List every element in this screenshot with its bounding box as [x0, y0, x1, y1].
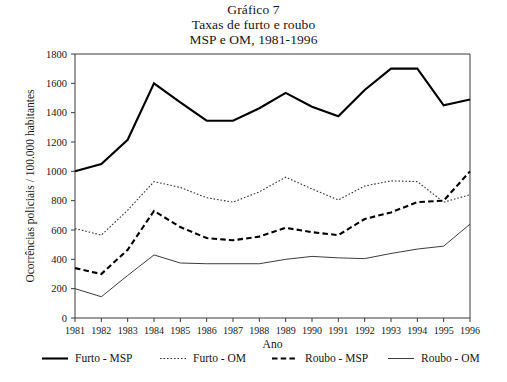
x-tick-label: 1983 — [118, 325, 138, 336]
x-tick-label: 1990 — [302, 325, 322, 336]
x-tick-label: 1995 — [434, 325, 454, 336]
x-tick-label: 1991 — [328, 325, 348, 336]
x-tick-label: 1981 — [65, 325, 85, 336]
y-tick-label: 1600 — [46, 78, 67, 89]
y-tick-label: 1000 — [46, 166, 67, 177]
x-tick-label: 1988 — [249, 325, 269, 336]
legend-layer: Furto - MSPFurto - OMRoubo - MSPRoubo - … — [42, 352, 480, 364]
y-tick-label: 800 — [51, 195, 67, 206]
tick-label-layer: 0200400600800100012001400160018001981198… — [46, 49, 480, 336]
legend-label-furto-om: Furto - OM — [193, 352, 246, 364]
series-line-roubo-om — [75, 224, 470, 297]
x-tick-label: 1982 — [91, 325, 111, 336]
legend-label-roubo-msp: Roubo - MSP — [305, 352, 368, 364]
y-tick-label: 1400 — [46, 107, 67, 118]
y-tick-label: 1800 — [46, 49, 67, 60]
series-line-furto-om — [75, 177, 470, 235]
x-tick-label: 1989 — [276, 325, 296, 336]
plot-frame — [75, 54, 470, 318]
series-line-roubo-msp — [75, 171, 470, 274]
y-tick-label: 600 — [51, 225, 67, 236]
axis-title-layer: AnoOcorrências policiais / 100.000 habit… — [24, 89, 283, 350]
y-tick-label: 400 — [51, 254, 67, 265]
axes-layer — [71, 54, 470, 322]
x-tick-label: 1987 — [223, 325, 243, 336]
x-tick-label: 1994 — [407, 325, 427, 336]
x-tick-label: 1992 — [355, 325, 375, 336]
x-tick-label: 1985 — [170, 325, 190, 336]
y-tick-label: 0 — [62, 313, 67, 324]
chart-figure: Gráfico 7 Taxas de furto e roubo MSP e O… — [0, 0, 507, 382]
x-tick-label: 1996 — [460, 325, 480, 336]
y-axis-title: Ocorrências policiais / 100.000 habitant… — [24, 89, 37, 283]
x-tick-label: 1986 — [197, 325, 217, 336]
x-tick-label: 1984 — [144, 325, 164, 336]
legend-label-roubo-om: Roubo - OM — [421, 352, 480, 364]
x-tick-label: 1993 — [381, 325, 401, 336]
legend-label-furto-msp: Furto - MSP — [75, 352, 133, 364]
y-tick-label: 1200 — [46, 137, 67, 148]
line-chart-plot: 0200400600800100012001400160018001981198… — [0, 0, 507, 382]
series-line-furto-msp — [75, 69, 470, 172]
x-axis-title: Ano — [263, 338, 283, 350]
y-tick-label: 200 — [51, 283, 67, 294]
series-layer — [75, 69, 470, 297]
